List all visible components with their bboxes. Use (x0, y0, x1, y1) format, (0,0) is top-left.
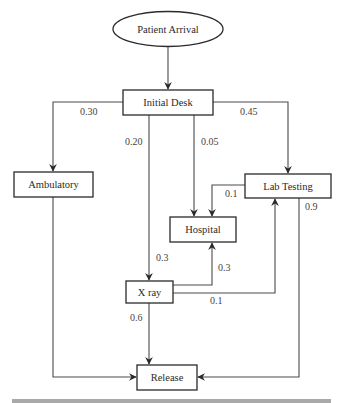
node-lab-testing: Lab Testing (245, 174, 331, 198)
prob-label: 0.45 (240, 106, 258, 117)
edge-xray-to-lab: 0.1 (173, 199, 275, 306)
node-label: Patient Arrival (137, 24, 199, 35)
node-release: Release (137, 365, 197, 390)
prob-label: 0.1 (225, 188, 238, 199)
node-label: Hospital (185, 224, 221, 235)
prob-label: 0.3 (218, 262, 231, 273)
bottom-divider-bar (12, 399, 331, 403)
prob-label: 0.20 (125, 136, 143, 147)
edge-ambulatory-to-release (53, 197, 136, 377)
node-ambulatory: Ambulatory (14, 172, 93, 197)
edge-desk-to-xray: 0.20 0.3 (125, 115, 169, 280)
node-label: Lab Testing (263, 181, 313, 192)
edge-xray-to-hospital: 0.3 (173, 243, 231, 285)
edge-xray-to-release: 0.6 (130, 303, 149, 364)
node-label: Ambulatory (28, 179, 79, 190)
node-xray: X ray (126, 281, 173, 303)
prob-label: 0.05 (201, 136, 219, 147)
prob-label: 0.1 (210, 295, 223, 306)
edge-desk-to-lab: 0.45 (213, 102, 288, 173)
edge-desk-to-hospital: 0.05 (194, 115, 219, 216)
node-label: X ray (138, 287, 162, 298)
prob-label: 0.3 (156, 252, 169, 263)
node-patient-arrival: Patient Arrival (113, 12, 223, 47)
edge-lab-to-hospital: 0.1 (212, 185, 245, 216)
node-hospital: Hospital (170, 217, 236, 242)
patient-flow-diagram: 0.30 0.20 0.3 0.05 0.45 0.1 0.3 0.1 0.9 … (0, 0, 342, 403)
edge-desk-to-ambulatory: 0.30 (53, 102, 123, 171)
node-label: Release (151, 372, 184, 383)
node-initial-desk: Initial Desk (123, 90, 213, 115)
prob-label: 0.9 (305, 201, 318, 212)
prob-label: 0.6 (130, 312, 143, 323)
prob-label: 0.30 (80, 106, 98, 117)
node-label: Initial Desk (143, 97, 193, 108)
